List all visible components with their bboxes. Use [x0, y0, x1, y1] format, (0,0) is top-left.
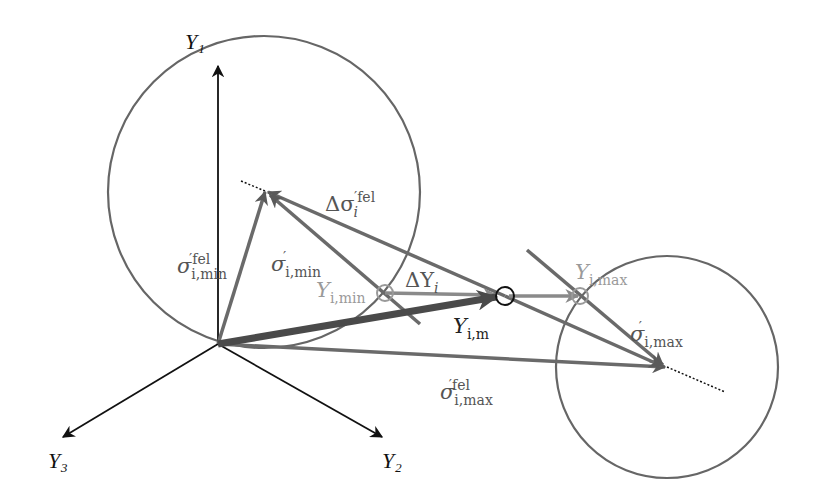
diagram-graphics: [0, 0, 816, 499]
axis-y3: [63, 344, 218, 437]
vector-delta-y: [385, 293, 496, 295]
label-sigma-min-fel: σi,min′fel: [177, 252, 210, 281]
label-sigma-max-fel: σi,max′fel: [440, 378, 470, 407]
axis-label-y3: Y₃: [48, 450, 68, 472]
dotted-extension-max: [667, 367, 725, 392]
axis-label-y2: Y₂: [382, 450, 402, 472]
label-delta-y: ΔYi: [405, 270, 439, 295]
diagram-canvas: Y₁ Y₃ Y₂ Δσi′fel σi,min′fel σi,min′ Yi,m…: [0, 0, 816, 499]
axis-label-y1: Y₁: [185, 31, 205, 53]
vector-sigma-max-fel: [218, 344, 665, 367]
dotted-extension-min: [241, 181, 265, 191]
label-delta-sigma-fel: Δσi′fel: [325, 190, 375, 219]
vector-delta-sigma-fel: [268, 192, 505, 296]
label-y-max: Yi,max: [575, 262, 627, 287]
label-sigma-max: σi,max′: [630, 320, 642, 349]
axis-y2: [218, 344, 382, 437]
label-y-min: Yi,min: [316, 280, 366, 305]
label-y-m: Yi,m: [453, 316, 489, 341]
label-sigma-min: σi,min′: [271, 250, 286, 279]
